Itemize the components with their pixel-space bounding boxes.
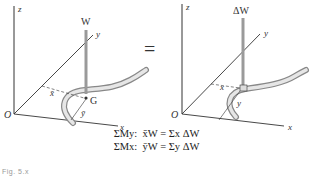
left-x-bar-label: x̄	[49, 88, 55, 98]
delta-weight-label: ΔW	[233, 5, 249, 16]
moment-equation-x: ΣMx: ȳW = Σy ΔW	[0, 141, 313, 152]
right-x-label-dim: x	[219, 82, 224, 92]
right-z-label: z	[185, 2, 190, 12]
y-axis	[14, 35, 93, 114]
right-y-label: y	[263, 28, 268, 38]
left-z-label: z	[17, 4, 22, 14]
x-dimension	[211, 84, 240, 88]
left-y-bar-label: ȳ	[80, 108, 86, 118]
right-panel	[182, 4, 306, 126]
equation-lhs: ΣMx:	[114, 141, 138, 152]
figure-caption: Fig. 5.x	[2, 168, 29, 175]
element-segment	[240, 85, 247, 91]
weight-label: W	[81, 16, 91, 27]
left-y-label: y	[95, 29, 100, 39]
left-panel	[14, 6, 146, 126]
left-origin-label: O	[4, 109, 11, 120]
y-axis	[182, 34, 260, 114]
centroid-label: G	[90, 95, 97, 106]
equation-lhs: ΣMy:	[114, 128, 138, 139]
equation-rhs: ȳW = Σy ΔW	[143, 141, 200, 152]
moment-equation-y: ΣMy: x̄W = Σx ΔW	[0, 128, 313, 139]
right-origin-label: O	[171, 109, 178, 120]
right-y-label-dim: y	[236, 98, 241, 108]
equals-sign: =	[144, 38, 155, 60]
equation-rhs: x̄W = Σx ΔW	[143, 128, 200, 139]
